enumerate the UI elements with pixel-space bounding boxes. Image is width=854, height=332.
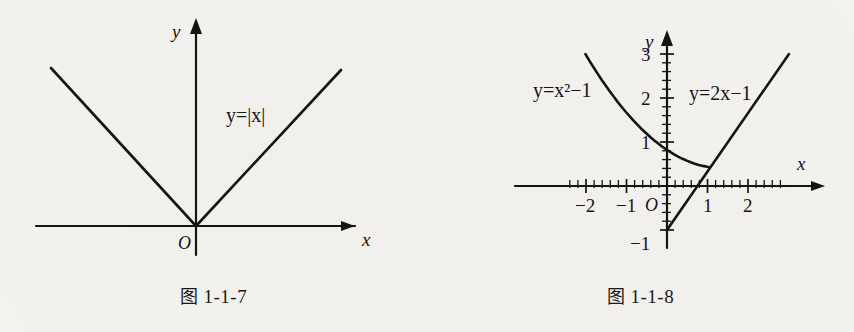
plot-absolute-value: x y O y=|x|	[0, 0, 427, 290]
x-tick-label-2: 2	[743, 195, 753, 216]
origin-label: O	[178, 233, 191, 253]
caption-cn-word: 图	[607, 286, 626, 307]
equation-label-line: y=2x−1	[689, 82, 752, 105]
caption-cn-word: 图	[180, 286, 199, 307]
x-tick-label--2: −2	[575, 195, 595, 216]
y-axis-arrowhead	[661, 30, 673, 46]
caption-number: 1-1-8	[631, 286, 675, 307]
x-axis-label: x	[796, 153, 806, 174]
figure-caption-1-1-8: 图 1-1-8	[427, 282, 854, 308]
curve-line-2x-minus-1	[667, 54, 789, 230]
y-axis-label: y	[170, 21, 181, 42]
y-tick-label-1: 1	[641, 132, 651, 153]
x-axis-arrowhead	[341, 221, 355, 231]
x-tick-label-1: 1	[703, 195, 713, 216]
origin-label: O	[645, 195, 658, 215]
y-tick-label-2: 2	[641, 88, 651, 109]
x-tick-label--1: −1	[616, 195, 636, 216]
plot-parabola-line: x y O −2 −1 1 2 1 2 3 −1 y=x²−1 y=2x−1	[427, 0, 854, 290]
x-axis-arrowhead	[811, 181, 825, 191]
figure-1-1-7: x y O y=|x| 图 1-1-7	[0, 0, 427, 332]
y-tick-label-3: 3	[641, 44, 651, 65]
caption-number: 1-1-7	[204, 286, 248, 307]
equation-label-absolute-value: y=|x|	[226, 104, 265, 127]
y-axis-arrowhead	[190, 18, 202, 34]
equation-label-parabola: y=x²−1	[533, 79, 592, 102]
figure-caption-1-1-7: 图 1-1-7	[0, 282, 427, 308]
y-tick-label--1: −1	[630, 233, 650, 254]
x-axis-label: x	[361, 229, 371, 250]
figure-1-1-8: x y O −2 −1 1 2 1 2 3 −1 y=x²−1 y=2x−1 图…	[427, 0, 854, 332]
figure-page: x y O y=|x| 图 1-1-7	[0, 0, 854, 332]
